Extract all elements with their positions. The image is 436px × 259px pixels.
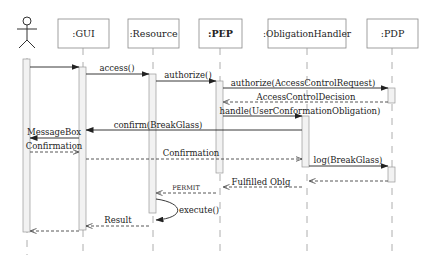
- message-label: PERMIT: [172, 184, 200, 192]
- participant-label: :GUI: [72, 28, 95, 39]
- participant-pep: :PEP: [199, 19, 242, 48]
- message-label: handle(UserConformationObligation): [220, 106, 381, 116]
- message-label: Fulfilled Oblg: [232, 177, 291, 187]
- sequence-diagram: :GUI :Resource :PEP :ObligationHandler :…: [0, 0, 436, 259]
- participant-obligation-handler: :ObligationHandler: [263, 19, 352, 48]
- message-label: MessageBox: [27, 127, 81, 137]
- message-label: authorize(AccessControlRequest): [231, 78, 375, 88]
- message-label: Result: [104, 215, 132, 225]
- participant-pdp: :PDP: [367, 19, 418, 48]
- stick-figure-icon: [17, 17, 37, 48]
- participant-label: :ObligationHandler: [263, 29, 352, 39]
- message-label: execute(): [179, 205, 219, 215]
- participant-label: :PEP: [208, 28, 233, 39]
- message-label: log(BreakGlass): [314, 155, 383, 165]
- participant-label: :PDP: [381, 28, 405, 39]
- message-label: access(): [100, 63, 135, 73]
- participant-resource: :Resource: [128, 19, 179, 48]
- message-label: Confirmation: [163, 148, 220, 158]
- participant-label: :Resource: [129, 28, 178, 39]
- message-label: confirm(BreakGlass): [114, 120, 203, 130]
- self-call-arrow: [156, 199, 178, 220]
- message-label: Confirmation: [26, 141, 83, 151]
- participant-gui: :GUI: [58, 19, 109, 48]
- message-label: authorize(): [164, 70, 211, 80]
- message-label: AccessControlDecision: [256, 92, 356, 102]
